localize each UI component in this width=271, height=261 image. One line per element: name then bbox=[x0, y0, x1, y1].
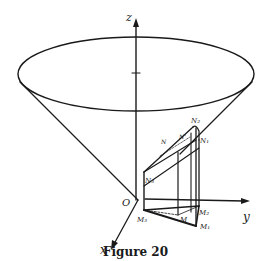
figure-diagram: z y x O N₂ N₁ N N' N₃ M₃ M M₂ M₁ Figure … bbox=[0, 0, 271, 261]
point-N2-label: N₂ bbox=[190, 117, 200, 125]
edge-M3-M1 bbox=[144, 210, 196, 226]
point-N-label: N bbox=[160, 138, 167, 145]
point-N1-label: N₁ bbox=[199, 137, 209, 145]
point-M-label: M bbox=[179, 216, 188, 224]
cone-edge-left bbox=[20, 82, 138, 200]
point-M1-label: M₁ bbox=[199, 223, 210, 231]
point-M2-label: M₂ bbox=[198, 209, 209, 217]
point-M3-label: M₃ bbox=[136, 216, 147, 224]
z-axis-label: z bbox=[125, 11, 132, 24]
y-axis-arrow bbox=[241, 198, 250, 204]
y-axis bbox=[145, 199, 244, 201]
y-axis-label: y bbox=[242, 210, 250, 224]
point-N-prime-label: N' bbox=[178, 133, 186, 140]
point-N3-label: N₃ bbox=[144, 177, 154, 185]
origin-label: O bbox=[122, 197, 130, 208]
z-axis-arrow bbox=[133, 18, 139, 27]
figure-caption: Figure 20 bbox=[103, 245, 168, 259]
